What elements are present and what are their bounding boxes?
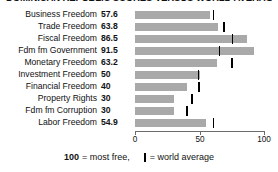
x-axis-tick-label: 0 — [133, 135, 138, 144]
row-value: 63.8 — [101, 21, 118, 32]
value-bar — [135, 23, 218, 31]
world-average-marker — [232, 34, 234, 44]
row-label: Property Rights — [38, 93, 97, 104]
heritage-freedom-bar-chart: DOMINICAN REPUBLIC SCORES VERSUS WORLD A… — [0, 0, 278, 172]
x-axis-tick — [200, 131, 201, 135]
value-bar — [135, 47, 254, 55]
row-label: Fdm fm Government — [18, 45, 97, 56]
row-plot — [135, 10, 265, 19]
table-row: Property Rights 30 — [0, 93, 278, 105]
world-average-marker-icon — [144, 153, 146, 162]
value-bar — [135, 119, 206, 127]
row-label: Business Freedom — [25, 9, 97, 20]
row-label: Financial Freedom — [26, 81, 97, 92]
table-row: Labor Freedom 54.9 — [0, 117, 278, 129]
row-plot — [135, 70, 265, 79]
value-bar — [135, 95, 174, 103]
world-average-marker — [186, 106, 188, 116]
row-label: Labor Freedom — [38, 117, 97, 128]
row-value: 86.5 — [101, 33, 118, 44]
row-label: Trade Freedom — [38, 21, 97, 32]
world-average-marker — [213, 118, 215, 128]
legend-item-scale: 100 = most free, — [64, 152, 130, 162]
row-plot — [135, 46, 265, 55]
world-average-marker — [213, 10, 215, 20]
row-label: Fdm fm Corruption — [25, 105, 97, 116]
value-bar — [135, 11, 210, 19]
chart-title: DOMINICAN REPUBLIC SCORES VERSUS WORLD A… — [6, 0, 272, 1]
table-row: Fiscal Freedom 86.5 — [0, 33, 278, 45]
row-value: 30 — [101, 105, 111, 116]
x-axis-tick — [135, 131, 136, 135]
row-plot — [135, 118, 265, 127]
legend-item-world-average: = world average — [144, 152, 214, 162]
table-row: Fdm fm Corruption 30 — [0, 105, 278, 117]
value-bar — [135, 59, 217, 67]
legend-scale-text: = most free, — [82, 152, 130, 162]
x-axis-tick — [264, 131, 265, 135]
row-plot — [135, 58, 265, 67]
world-average-marker — [219, 46, 221, 56]
value-bar — [135, 83, 187, 91]
value-bar — [135, 107, 174, 115]
row-value: 63.2 — [101, 57, 118, 68]
row-label: Investment Freedom — [18, 69, 97, 80]
chart-legend: 100 = most free, = world average — [0, 149, 278, 165]
row-value: 91.5 — [101, 45, 118, 56]
x-axis-tick-label: 100 — [257, 135, 271, 144]
row-label: Monetary Freedom — [24, 57, 97, 68]
table-row: Financial Freedom 40 — [0, 81, 278, 93]
world-average-marker — [231, 58, 233, 68]
row-plot — [135, 106, 265, 115]
row-value: 30 — [101, 93, 111, 104]
row-plot — [135, 82, 265, 91]
value-bar — [135, 71, 200, 79]
chart-rows: Business Freedom 57.6 Trade Freedom 63.8… — [0, 9, 278, 129]
table-row: Monetary Freedom 63.2 — [0, 57, 278, 69]
table-row: Investment Freedom 50 — [0, 69, 278, 81]
row-value: 50 — [101, 69, 111, 80]
row-plot — [135, 22, 265, 31]
row-label: Fiscal Freedom — [38, 33, 97, 44]
row-plot — [135, 94, 265, 103]
legend-world-average-text: = world average — [150, 152, 214, 162]
x-axis-tick-label: 50 — [195, 135, 204, 144]
world-average-marker — [198, 82, 200, 92]
row-value: 54.9 — [101, 117, 118, 128]
world-average-marker — [198, 70, 200, 80]
table-row: Trade Freedom 63.8 — [0, 21, 278, 33]
value-bar — [135, 35, 247, 43]
legend-scale-value: 100 — [64, 152, 79, 162]
world-average-marker — [191, 94, 193, 104]
world-average-marker — [223, 22, 225, 32]
table-row: Fdm fm Government 91.5 — [0, 45, 278, 57]
row-plot — [135, 34, 265, 43]
table-row: Business Freedom 57.6 — [0, 9, 278, 21]
row-value: 57.6 — [101, 9, 118, 20]
row-value: 40 — [101, 81, 111, 92]
